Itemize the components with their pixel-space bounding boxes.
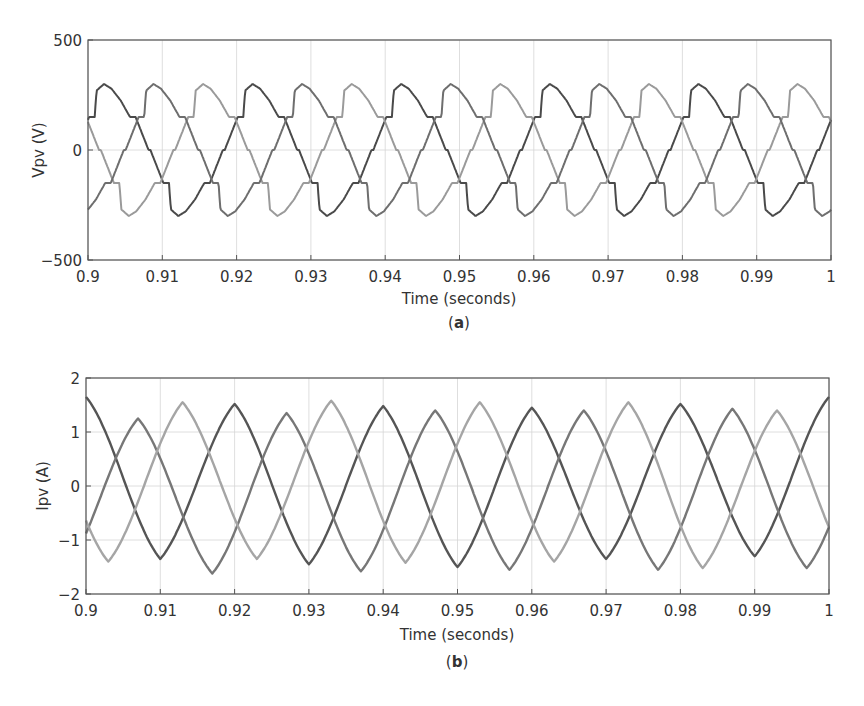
- x-tick-label: 0.94: [366, 602, 399, 620]
- x-tick-label: 0.99: [740, 268, 773, 286]
- panel-a-ylabel: Vpv (V): [30, 122, 48, 177]
- x-tick-label: 0.95: [441, 602, 474, 620]
- panel-b-caption-letter: b: [452, 653, 463, 671]
- x-tick-label: 0.9: [76, 268, 100, 286]
- figure-canvas: 5000−500 0.90.910.920.930.940.950.960.97…: [0, 0, 864, 706]
- y-tick-label: 1: [70, 424, 80, 442]
- x-tick-label: 0.96: [515, 602, 548, 620]
- panel-b-grid: [86, 378, 829, 594]
- figure: 5000−500 0.90.910.920.930.940.950.960.97…: [0, 0, 864, 706]
- panel-b-ylabel: Ipv (A): [34, 461, 52, 511]
- y-tick-label: 2: [70, 370, 80, 388]
- x-tick-label: 0.9: [74, 602, 98, 620]
- x-tick-label: 0.93: [294, 268, 327, 286]
- panel-a-caption: (a): [448, 314, 470, 332]
- x-tick-label: 0.93: [292, 602, 325, 620]
- x-tick-label: 0.97: [589, 602, 622, 620]
- x-tick-label: 0.92: [220, 268, 253, 286]
- panel-a-xlabel: Time (seconds): [401, 290, 517, 308]
- x-tick-label: 0.96: [517, 268, 550, 286]
- x-tick-label: 1: [826, 268, 836, 286]
- y-tick-label: −1: [58, 532, 80, 550]
- panel-b-current-plot: 210−1−2 0.90.910.920.930.940.950.960.970…: [34, 370, 834, 671]
- panel-a-voltage-plot: 5000−500 0.90.910.920.930.940.950.960.97…: [30, 32, 836, 332]
- y-tick-label: 500: [53, 32, 82, 50]
- x-tick-label: 0.97: [591, 268, 624, 286]
- x-tick-label: 0.91: [144, 602, 177, 620]
- x-tick-label: 0.98: [664, 602, 697, 620]
- x-tick-label: 1: [824, 602, 834, 620]
- x-tick-label: 0.94: [368, 268, 401, 286]
- x-tick-label: 0.91: [146, 268, 179, 286]
- y-tick-label: 0: [72, 142, 82, 160]
- panel-a-caption-letter: a: [454, 314, 464, 332]
- x-tick-label: 0.95: [443, 268, 476, 286]
- panel-a-yticks: 5000−500: [41, 32, 93, 270]
- x-tick-label: 0.98: [666, 268, 699, 286]
- panel-b-xlabel: Time (seconds): [399, 626, 515, 644]
- panel-b-caption: (b): [446, 653, 468, 671]
- y-tick-label: 0: [70, 478, 80, 496]
- x-tick-label: 0.92: [218, 602, 251, 620]
- x-tick-label: 0.99: [738, 602, 771, 620]
